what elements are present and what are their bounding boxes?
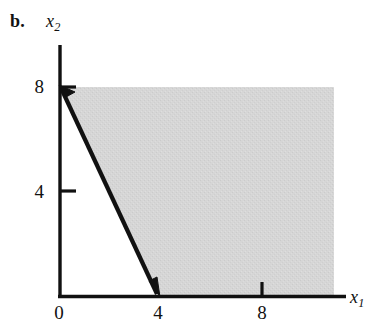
x-axis-label-text: x: [350, 287, 358, 307]
x-tick-label-4: 4: [146, 303, 170, 322]
y-axis-label: x2: [46, 12, 60, 30]
feasible-region-shading: [59, 87, 334, 295]
x-axis-label-subscript: 1: [358, 296, 364, 310]
y-axis-label-text: x: [46, 11, 54, 31]
y-axis-label-subscript: 2: [54, 20, 60, 34]
y-tick-label-8: 8: [26, 77, 44, 96]
y-tick-label-4: 4: [26, 182, 44, 201]
x-tick-label-0: 0: [47, 303, 71, 322]
figure-container: b. x2 x1 0 4 8 4 8: [0, 0, 383, 333]
x-tick-label-8: 8: [250, 303, 274, 322]
plot-svg: [0, 0, 383, 333]
part-label: b.: [10, 12, 25, 30]
x-axis-label: x1: [350, 288, 364, 306]
